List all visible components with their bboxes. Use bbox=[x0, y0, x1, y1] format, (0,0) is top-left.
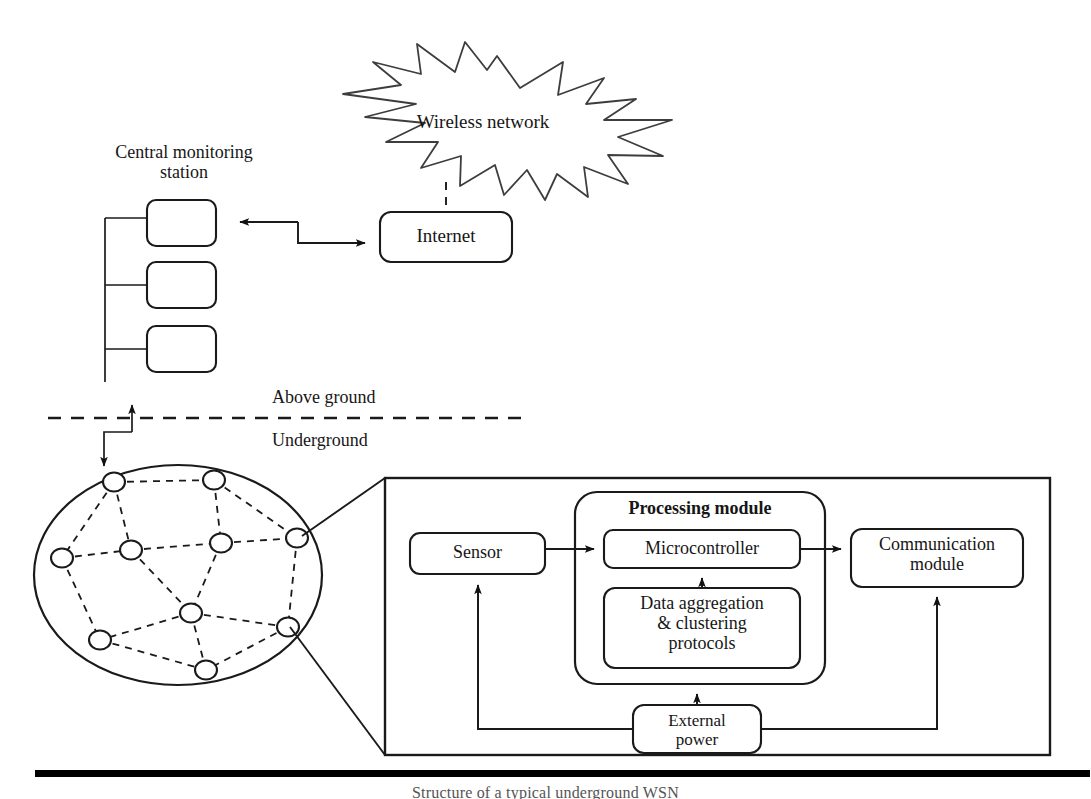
sensor-node bbox=[51, 549, 73, 568]
sensor-field-ellipse bbox=[34, 465, 322, 685]
sensor-node bbox=[286, 529, 308, 548]
internet-to-station-arrow bbox=[240, 222, 365, 243]
monitoring-box-3 bbox=[147, 326, 216, 372]
sensor-node bbox=[103, 473, 125, 492]
sensor-node bbox=[210, 534, 232, 553]
sensor-node bbox=[195, 661, 217, 680]
external-power-box bbox=[633, 705, 761, 753]
diagram-canvas bbox=[0, 0, 1091, 799]
figure-caption: Structure of a typical underground WSN bbox=[0, 784, 1091, 799]
wireless-network-burst bbox=[343, 42, 672, 200]
monitoring-station-bus bbox=[105, 218, 147, 382]
sensor-node bbox=[180, 604, 202, 623]
sensor-node bbox=[89, 631, 111, 650]
bottom-rule bbox=[35, 770, 1090, 777]
field-to-station-arrow bbox=[104, 405, 132, 466]
sensor-box bbox=[410, 533, 545, 574]
communication-module-box bbox=[851, 529, 1023, 587]
internet-node bbox=[380, 212, 512, 262]
sensor-node bbox=[203, 471, 225, 490]
monitoring-box-1 bbox=[147, 200, 216, 246]
sensor-node bbox=[120, 541, 142, 560]
figure-underground-wsn-architecture: Wireless network Central monitoring stat… bbox=[0, 0, 1091, 799]
monitoring-box-2 bbox=[147, 262, 216, 308]
data-aggregation-box bbox=[604, 588, 800, 668]
monitoring-station-boxes bbox=[147, 200, 216, 372]
microcontroller-box bbox=[604, 530, 800, 568]
